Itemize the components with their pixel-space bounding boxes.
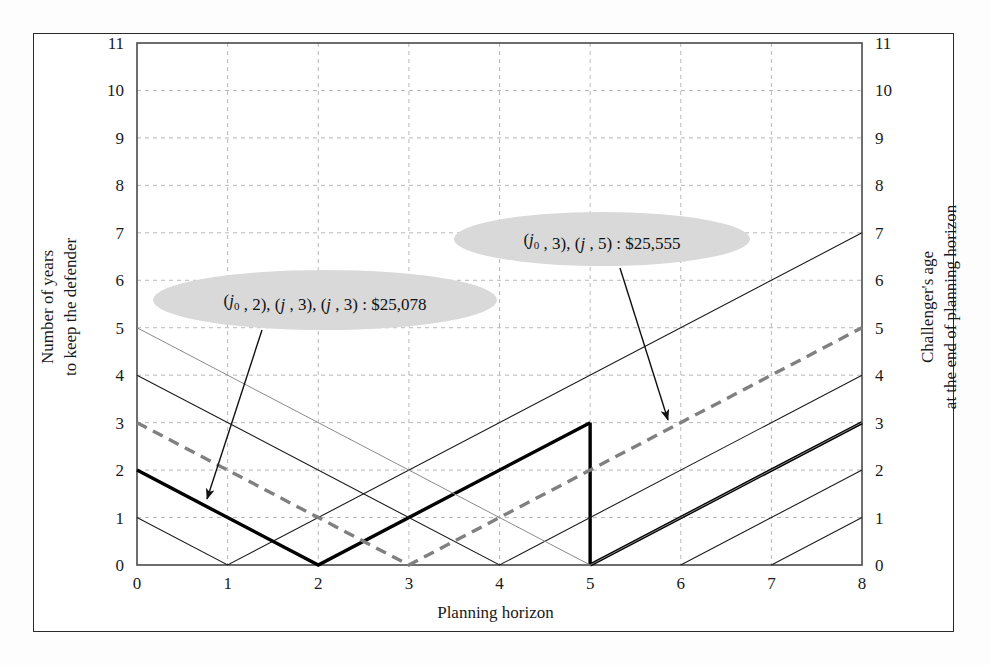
- y-tick-label-left: 11: [108, 34, 124, 53]
- x-tick-label: 1: [223, 574, 232, 593]
- y-tick-label-left: 1: [116, 509, 125, 528]
- y-tick-label-left: 2: [116, 461, 125, 480]
- y-tick-label-left: 7: [116, 224, 125, 243]
- y-axis-title-right: Challenger's age at the end of planning …: [917, 157, 963, 457]
- x-tick-label: 2: [314, 574, 323, 593]
- y-tick-label-left: 0: [116, 556, 125, 575]
- y-tick-label-left: 6: [116, 271, 125, 290]
- annotation-label: (j0 , 3), (j , 5) : $25,555: [523, 230, 680, 253]
- y-tick-label-left: 5: [116, 319, 125, 338]
- y-axis-title-right-line2: at the end of planning horizon: [940, 157, 963, 457]
- y-axis-title-left: Number of years to keep the defender: [37, 157, 83, 457]
- annotation-label: (j0 , 2), (j , 3), (j , 3) : $25,078: [224, 291, 427, 314]
- plot-wrapper: (j0 , 2), (j , 3), (j , 3) : $25,078(j0 …: [0, 0, 991, 665]
- y-tick-label-right: 3: [875, 414, 884, 433]
- annotation-arrow: [620, 268, 668, 420]
- y-tick-label-left: 10: [107, 81, 124, 100]
- y-tick-label-right: 4: [875, 366, 884, 385]
- y-axis-title-left-line1: Number of years: [37, 157, 60, 457]
- series-ray-from-7: [771, 518, 862, 565]
- y-tick-label-right: 11: [875, 34, 891, 53]
- x-tick-label: 6: [677, 574, 686, 593]
- x-tick-label: 7: [767, 574, 776, 593]
- y-axis-title-left-line2: to keep the defender: [60, 157, 83, 457]
- y-tick-label-right: 2: [875, 461, 884, 480]
- x-tick-label: 0: [133, 574, 142, 593]
- x-tick-label: 4: [495, 574, 504, 593]
- y-tick-label-right: 5: [875, 319, 884, 338]
- y-tick-label-left: 3: [116, 414, 125, 433]
- y-tick-label-right: 1: [875, 509, 884, 528]
- y-tick-label-left: 4: [116, 366, 125, 385]
- x-tick-label: 8: [858, 574, 867, 593]
- y-tick-label-right: 0: [875, 556, 884, 575]
- x-tick-label: 3: [405, 574, 414, 593]
- figure-root: (j0 , 2), (j , 3), (j , 3) : $25,078(j0 …: [0, 0, 991, 665]
- y-tick-label-right: 9: [875, 129, 884, 148]
- y-tick-label-right: 8: [875, 176, 884, 195]
- y-tick-label-right: 6: [875, 271, 884, 290]
- chart-svg: (j0 , 2), (j , 3), (j , 3) : $25,078(j0 …: [0, 0, 991, 665]
- y-tick-label-right: 10: [875, 81, 892, 100]
- x-tick-label: 5: [586, 574, 595, 593]
- y-tick-label-left: 8: [116, 176, 125, 195]
- x-axis-title: Planning horizon: [0, 602, 991, 625]
- y-tick-label-right: 7: [875, 224, 884, 243]
- y-tick-label-left: 9: [116, 129, 125, 148]
- y-axis-title-right-line1: Challenger's age: [917, 157, 940, 457]
